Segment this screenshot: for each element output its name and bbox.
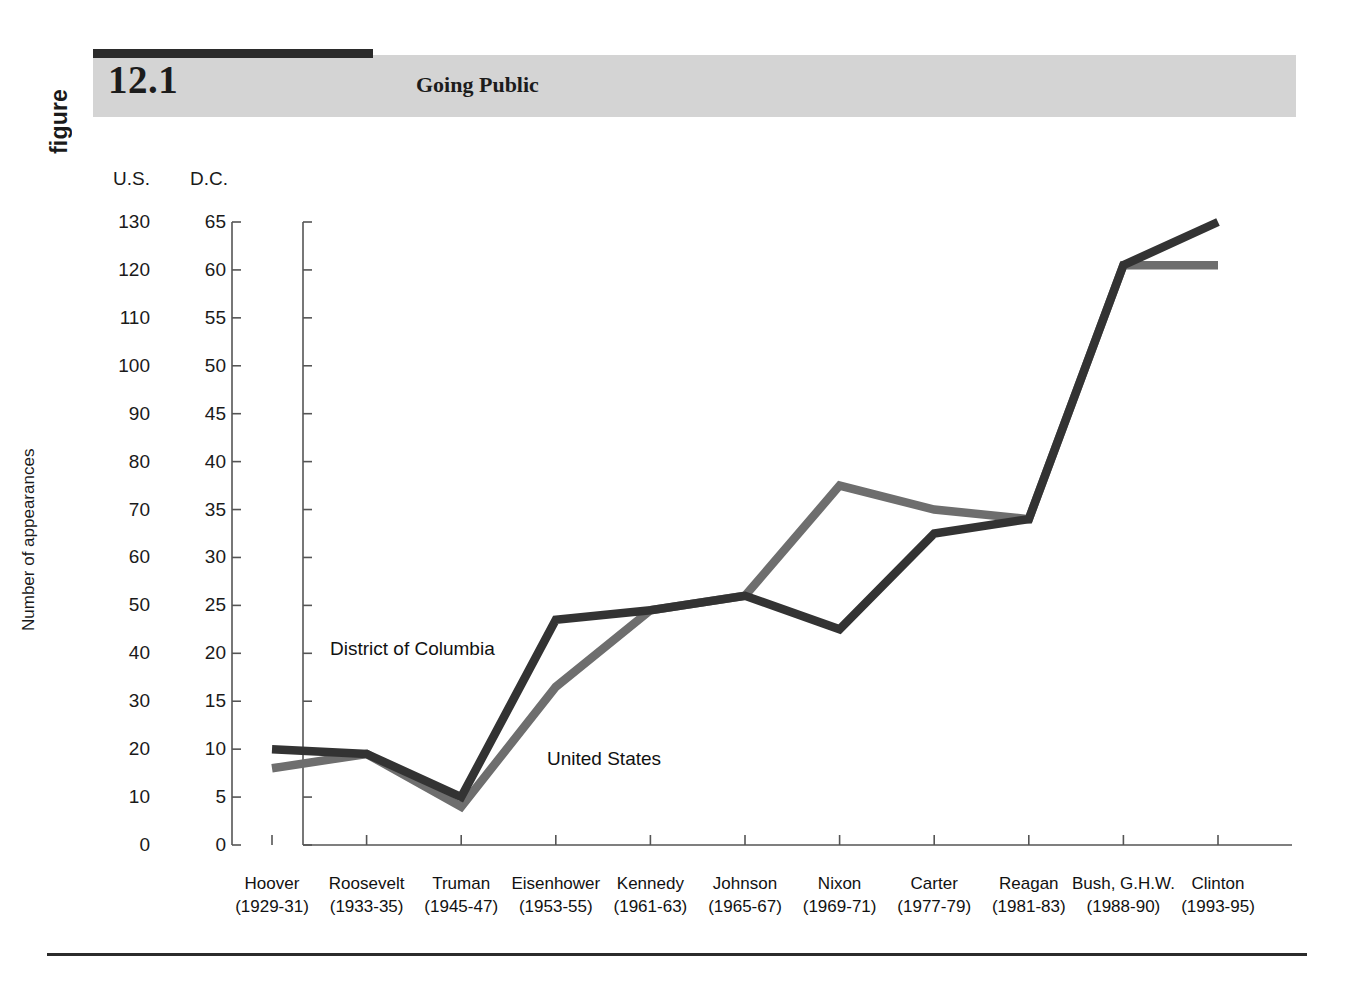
series-line-dc xyxy=(272,222,1218,797)
series-line-us xyxy=(272,265,1218,807)
line-chart: U.S. D.C. Number of appearances 13012011… xyxy=(0,0,1355,990)
series-label-us: United States xyxy=(547,748,661,770)
series-label-dc: District of Columbia xyxy=(330,638,495,660)
plot-area xyxy=(0,0,1355,990)
bottom-rule xyxy=(47,953,1307,956)
